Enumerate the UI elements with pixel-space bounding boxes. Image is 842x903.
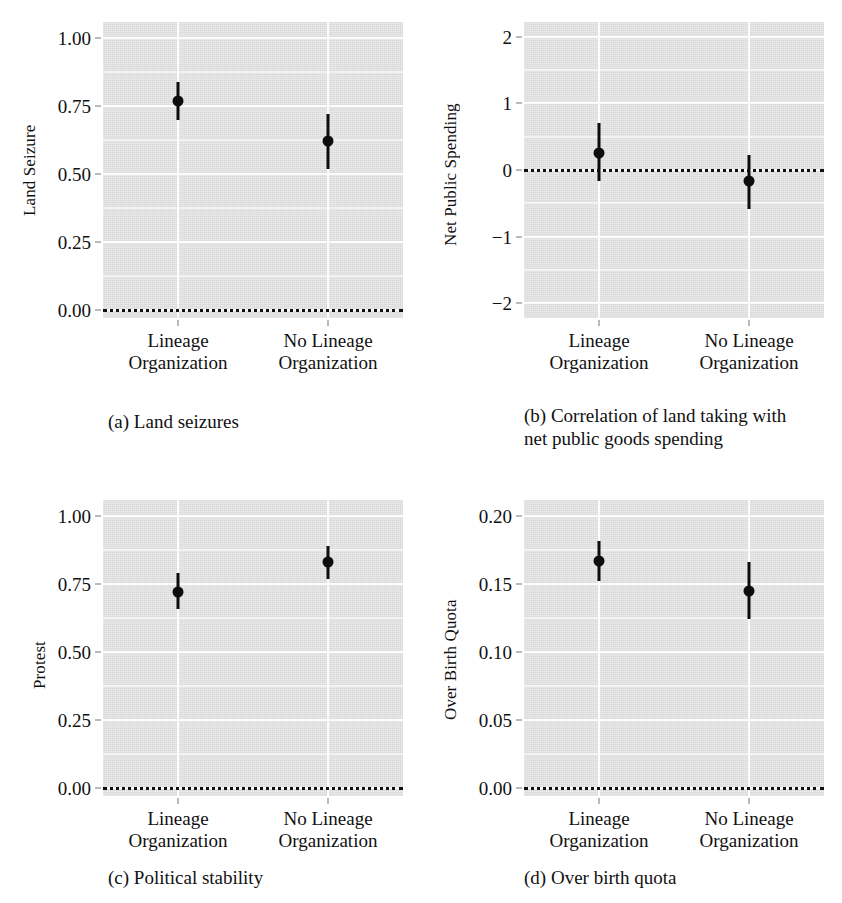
x-tick-label: No LineageOrganization [279,808,378,852]
caption-line: net public goods spending [524,427,834,450]
y-tick-label: 1 [503,94,513,113]
x-tick-mark [599,320,600,326]
y-ticks-d: 0.000.050.100.150.20 [421,500,522,796]
x-tick-label-line: Lineage [550,808,649,830]
data-point [173,95,184,106]
panel-b: Net Public Spending −2−1012 LineageOrgan… [421,0,842,455]
y-tick-label: 1.00 [58,507,91,526]
y-tick-label: 0.50 [58,165,91,184]
panel-a: Land Seizure 0.000.250.500.751.00 Lineag… [0,0,421,455]
x-tick-label-line: No Lineage [700,808,799,830]
minor-gridline [103,71,403,73]
y-tick-label: 0.00 [58,300,91,319]
y-tick-label: 0.20 [479,507,512,526]
y-tick-label: 0.50 [58,643,91,662]
y-tick-mark [516,303,522,304]
y-tick-mark [516,516,522,517]
gridline [103,105,403,107]
y-tick-mark [516,787,522,788]
gridline [524,236,824,238]
category-gridline [177,500,179,796]
panel-c: Protest 0.000.250.500.751.00 LineageOrga… [0,455,421,903]
data-point [323,557,334,568]
y-tick-label: 0.75 [58,575,91,594]
x-tick-label-line: No Lineage [279,330,378,352]
x-tick-label-line: Organization [700,352,799,374]
reference-line [103,309,403,312]
y-tick-label: 1.00 [58,29,91,48]
y-tick-mark [516,103,522,104]
y-ticks-a: 0.000.250.500.751.00 [0,22,101,318]
y-tick-label: 0.75 [58,97,91,116]
gridline [524,651,824,653]
y-tick-mark [95,106,101,107]
data-point [594,148,605,159]
y-tick-mark [95,719,101,720]
x-tick-label-line: Lineage [129,808,228,830]
gridline [524,36,824,38]
y-tick-label: 0 [503,161,513,180]
y-ticks-c: 0.000.250.500.751.00 [0,500,101,796]
caption-line: (d) Over birth quota [524,866,824,889]
x-tick-label-line: Organization [550,830,649,852]
minor-gridline [524,753,824,755]
plot-b: Net Public Spending −2−1012 LineageOrgan… [421,0,842,455]
caption-c: (c) Political stability [108,866,408,889]
caption-b: (b) Correlation of land taking withnet p… [524,404,834,450]
category-gridline [327,22,329,318]
x-tick-label: No LineageOrganization [700,330,799,374]
minor-gridline [103,685,403,687]
x-tick-mark [749,320,750,326]
x-tick-mark [599,798,600,804]
gridline [103,583,403,585]
category-gridline [748,500,750,796]
gridline [524,515,824,517]
y-tick-mark [516,719,522,720]
caption-a: (a) Land seizures [108,410,408,433]
x-tick-label-line: Organization [279,352,378,374]
x-tick-label: LineageOrganization [550,808,649,852]
y-tick-mark [95,309,101,310]
x-tick-mark [178,320,179,326]
gridline [524,719,824,721]
minor-gridline [524,549,824,551]
y-tick-mark [516,236,522,237]
plot-area-b [524,22,824,318]
gridline [103,515,403,517]
plot-area-c [103,500,403,796]
reference-line [103,787,403,790]
data-point [744,176,755,187]
caption-d: (d) Over birth quota [524,866,824,889]
x-tick-label-line: No Lineage [700,330,799,352]
plot-area-d [524,500,824,796]
x-tick-label-line: Organization [550,352,649,374]
y-tick-label: 0.15 [479,575,512,594]
x-tick-label-line: Lineage [550,330,649,352]
x-tick-label: No LineageOrganization [279,330,378,374]
y-tick-mark [95,787,101,788]
gridline [103,651,403,653]
x-tick-label-line: Organization [700,830,799,852]
y-tick-label: 0.25 [58,710,91,729]
y-tick-label: 0.25 [58,232,91,251]
x-ticks-d: LineageOrganizationNo LineageOrganizatio… [524,798,824,868]
category-gridline [327,500,329,796]
x-tick-label: LineageOrganization [129,808,228,852]
minor-gridline [524,136,824,138]
y-ticks-b: −2−1012 [421,22,522,318]
data-point [173,587,184,598]
y-tick-mark [95,652,101,653]
minor-gridline [524,685,824,687]
caption-line: (a) Land seizures [108,410,408,433]
caption-line: (b) Correlation of land taking with [524,404,834,427]
x-ticks-a: LineageOrganizationNo LineageOrganizatio… [103,320,403,390]
x-tick-label-line: No Lineage [279,808,378,830]
y-tick-mark [516,652,522,653]
minor-gridline [103,139,403,141]
plot-d: Over Birth Quota 0.000.050.100.150.20 Li… [421,455,842,903]
y-tick-mark [95,241,101,242]
gridline [524,583,824,585]
y-tick-mark [95,584,101,585]
gridline [524,102,824,104]
minor-gridline [524,202,824,204]
